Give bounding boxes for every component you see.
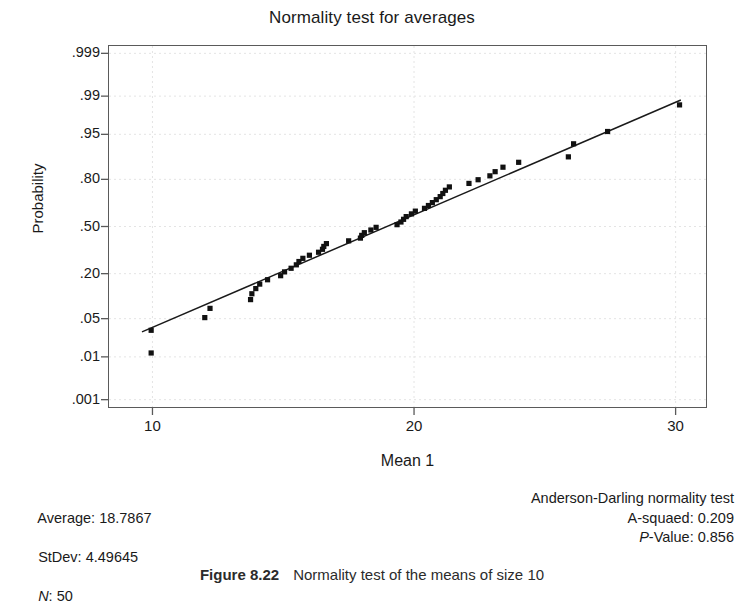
data-point xyxy=(257,282,262,287)
x-tick-label: 10 xyxy=(122,417,182,434)
data-point xyxy=(149,328,154,333)
data-point xyxy=(324,241,329,246)
data-point xyxy=(500,165,505,170)
data-point xyxy=(571,141,576,146)
data-point xyxy=(605,129,610,134)
sample-size-line: N: 50 xyxy=(38,588,73,604)
axis-ticks-group xyxy=(101,53,676,415)
data-point xyxy=(207,306,212,311)
data-point xyxy=(566,154,571,159)
y-tick-label: .20 xyxy=(40,266,100,281)
data-point xyxy=(248,297,253,302)
y-tick-label: .80 xyxy=(40,171,100,186)
y-tick-label: .001 xyxy=(40,392,100,407)
anderson-darling-results: Anderson-Darling normality test A-squaed… xyxy=(404,489,734,548)
average-line: Average: 18.7867 xyxy=(37,510,151,526)
stdev-line: StDev: 4.49645 xyxy=(38,549,138,565)
x-axis-tick-labels: 102030 xyxy=(0,417,744,441)
data-point xyxy=(253,286,258,291)
summary-statistics-left: Average: 18.7867 StDev: 4.49645 N: 50 xyxy=(22,489,152,605)
x-tick-label: 20 xyxy=(384,417,444,434)
data-point xyxy=(516,160,521,165)
y-tick-label: .999 xyxy=(40,45,100,60)
sample-size-value: : 50 xyxy=(49,588,73,604)
figure-caption: Figure 8.22Normality test of the means o… xyxy=(0,566,744,583)
y-tick-label: .99 xyxy=(40,88,100,103)
x-axis-title: Mean 1 xyxy=(108,452,707,470)
data-point xyxy=(374,225,379,230)
y-axis-title: Probability xyxy=(29,129,46,269)
test-name: Anderson-Darling normality test xyxy=(404,489,734,509)
data-point xyxy=(493,169,498,174)
sample-size-label: N xyxy=(38,588,48,604)
y-tick-label: .05 xyxy=(40,311,100,326)
a-squared-label: A-squaed: xyxy=(628,510,694,526)
p-value-line: P-Value: 0.856 xyxy=(404,528,734,548)
y-tick-label: .01 xyxy=(40,349,100,364)
a-squared-value: 0.209 xyxy=(698,510,734,526)
p-value-label: P xyxy=(639,529,649,545)
stdev-label: StDev: xyxy=(38,549,82,565)
data-point xyxy=(677,102,682,107)
data-point xyxy=(487,173,492,178)
data-point xyxy=(202,315,207,320)
data-point xyxy=(289,266,294,271)
data-point xyxy=(300,256,305,261)
stdev-value: 4.49645 xyxy=(86,549,138,565)
data-point xyxy=(149,350,154,355)
data-point xyxy=(282,269,287,274)
p-value-text: -Value: 0.856 xyxy=(649,529,734,545)
data-point xyxy=(404,214,409,219)
data-point xyxy=(362,230,367,235)
average-label: Average: xyxy=(37,510,95,526)
data-point xyxy=(368,227,373,232)
data-points-group xyxy=(149,102,683,355)
data-point xyxy=(447,184,452,189)
x-tick-label: 30 xyxy=(646,417,706,434)
data-point xyxy=(249,291,254,296)
data-point xyxy=(476,177,481,182)
y-tick-label: .50 xyxy=(40,219,100,234)
y-tick-label: .95 xyxy=(40,126,100,141)
data-point xyxy=(413,209,418,214)
data-point xyxy=(466,181,471,186)
figure-caption-label: Figure 8.22 xyxy=(200,566,279,583)
data-point xyxy=(346,238,351,243)
gridlines-group xyxy=(109,46,706,407)
average-value: 18.7867 xyxy=(99,510,151,526)
data-point xyxy=(307,253,312,258)
figure-caption-text: Normality test of the means of size 10 xyxy=(293,566,544,583)
a-squared-line: A-squaed: 0.209 xyxy=(404,509,734,529)
data-point xyxy=(265,277,270,282)
